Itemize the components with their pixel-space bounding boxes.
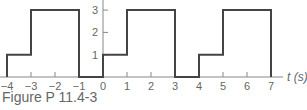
- x-tick-label: 6: [244, 80, 250, 92]
- x-tick-label: 0: [100, 80, 106, 92]
- figure-caption: Figure P 11.4-3: [2, 89, 97, 105]
- x-tick-label: 1: [124, 80, 130, 92]
- y-tick-label: 1: [92, 49, 98, 61]
- signal-waveform: [7, 10, 271, 77]
- x-tick-label: 7: [268, 80, 274, 92]
- y-tick-label: 2: [92, 26, 98, 38]
- x-axis-label: t (s): [287, 70, 307, 84]
- x-tick-label: 2: [148, 80, 154, 92]
- tick-marks: [7, 10, 271, 77]
- axes: [0, 0, 283, 77]
- x-tick-label: 4: [196, 80, 202, 92]
- y-tick-labels: 123: [92, 4, 98, 61]
- y-tick-label: 3: [92, 4, 98, 16]
- x-tick-label: 3: [172, 80, 178, 92]
- x-tick-label: 5: [220, 80, 226, 92]
